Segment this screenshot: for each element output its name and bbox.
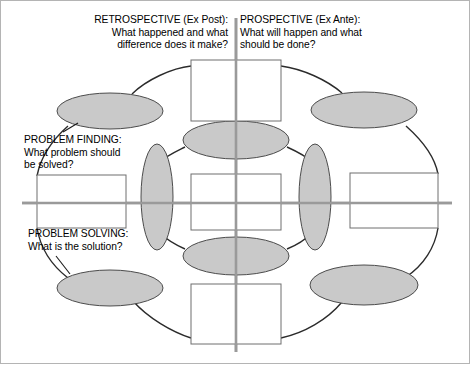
box-left[interactable] bbox=[37, 175, 126, 228]
ring-arc-lower-right bbox=[406, 228, 438, 277]
ring-arc-bottom-right bbox=[281, 302, 342, 338]
diagram-page: RETROSPECTIVE (Ex Post): What happened a… bbox=[0, 0, 471, 365]
node-top-left[interactable] bbox=[57, 93, 163, 129]
ring-arc-top-left bbox=[132, 66, 191, 94]
ring-arc-upper-right bbox=[406, 126, 438, 174]
ring-arc-top-right bbox=[281, 66, 342, 93]
diagram-canvas bbox=[0, 0, 471, 365]
caption-retrospective: RETROSPECTIVE (Ex Post): What happened a… bbox=[78, 14, 228, 52]
node-bottom-right[interactable] bbox=[310, 265, 418, 305]
caption-prospective: PROSPECTIVE (Ex Ante): What will happen … bbox=[240, 14, 400, 52]
node-mid-right[interactable] bbox=[299, 144, 331, 250]
caption-problem-finding: PROBLEM FINDING: What problem should be … bbox=[24, 134, 184, 172]
caption-problem-solving: PROBLEM SOLVING: What is the solution? bbox=[28, 228, 198, 253]
leader-problem-finding bbox=[63, 123, 78, 132]
box-right[interactable] bbox=[350, 173, 438, 228]
node-top-right[interactable] bbox=[311, 92, 417, 128]
ring-arc-bottom-left bbox=[133, 301, 191, 338]
leader-problem-solving bbox=[56, 256, 70, 274]
node-bottom-left[interactable] bbox=[57, 270, 163, 306]
